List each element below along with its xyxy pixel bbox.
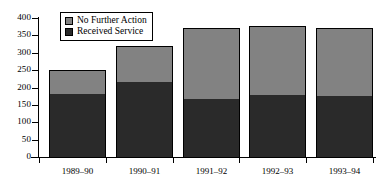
x-axis-tick xyxy=(106,158,107,163)
bar-segment-no-further-action xyxy=(116,46,173,82)
x-axis-tick xyxy=(239,158,240,163)
x-axis-tick xyxy=(373,158,374,163)
x-axis-tick-label: 1989–90 xyxy=(48,166,108,176)
stacked-bar-chart: 050100150200250300350400 1989–901990–911… xyxy=(0,0,381,183)
bar-segment-received-service xyxy=(316,96,373,157)
bar-segment-no-further-action xyxy=(183,28,240,99)
bar-segment-no-further-action xyxy=(316,28,373,96)
y-axis-tick-label: 0 xyxy=(0,152,31,161)
y-axis-tick-label-text: 350 xyxy=(1,30,31,39)
legend-swatch-no-further-action xyxy=(65,17,73,25)
y-axis-tick-label: 350 xyxy=(0,30,31,39)
y-axis-tick-label-text: 300 xyxy=(1,48,31,57)
x-axis-tick xyxy=(306,158,307,163)
x-axis-tick-label: 1990–91 xyxy=(115,166,175,176)
y-axis-tick-label: 50 xyxy=(0,135,31,144)
y-axis-tick-label: 200 xyxy=(0,83,31,92)
y-axis-tick-label-text: 400 xyxy=(1,13,31,22)
legend-label-no-further-action: No Further Action xyxy=(77,15,147,26)
legend-item-received-service: Received Service xyxy=(65,26,147,37)
bar-segment-no-further-action xyxy=(249,26,306,95)
legend-item-no-further-action: No Further Action xyxy=(65,15,147,26)
bar-segment-received-service xyxy=(49,94,106,157)
bar-1992-93 xyxy=(249,26,306,157)
x-axis-tick-label: 1993–94 xyxy=(315,166,375,176)
x-axis-tick xyxy=(173,158,174,163)
y-axis-tick-label-text: 150 xyxy=(1,100,31,109)
y-axis-tick-label-text: 0 xyxy=(1,152,31,161)
x-axis-tick-label: 1992–93 xyxy=(248,166,308,176)
bar-1990-91 xyxy=(116,46,173,157)
y-axis-tick-label: 250 xyxy=(0,65,31,74)
y-axis-tick-label: 300 xyxy=(0,48,31,57)
y-axis-tick-label-text: 50 xyxy=(1,135,31,144)
y-axis-tick-label-text: 200 xyxy=(1,83,31,92)
x-axis-tick xyxy=(39,158,40,163)
bar-1991-92 xyxy=(183,28,240,157)
legend-swatch-received-service xyxy=(65,28,73,36)
bar-1989-90 xyxy=(49,70,106,157)
y-axis-tick-label-text: 250 xyxy=(1,65,31,74)
bar-segment-no-further-action xyxy=(49,70,106,94)
x-axis-line xyxy=(31,157,376,158)
bar-1993-94 xyxy=(316,28,373,157)
y-axis-tick-label-text: 100 xyxy=(1,117,31,126)
bar-segment-received-service xyxy=(249,95,306,157)
bar-segment-received-service xyxy=(116,82,173,157)
legend-label-received-service: Received Service xyxy=(77,26,143,37)
bar-segment-received-service xyxy=(183,99,240,157)
y-axis-tick-label: 400 xyxy=(0,13,31,22)
y-axis-tick-label: 100 xyxy=(0,117,31,126)
x-axis-tick-label: 1991–92 xyxy=(182,166,242,176)
y-axis-tick-label: 150 xyxy=(0,100,31,109)
legend: No Further Action Received Service xyxy=(60,12,153,41)
